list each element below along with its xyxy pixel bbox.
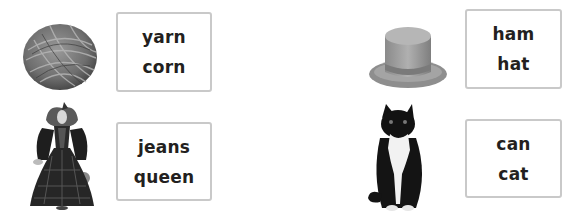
word-choice-box: yarn corn — [116, 12, 212, 92]
word-choice-box: ham hat — [465, 9, 562, 89]
word-option[interactable]: ham — [493, 19, 535, 49]
cat-picture — [366, 104, 438, 212]
word-option[interactable]: cat — [498, 159, 528, 189]
word-option[interactable]: yarn — [142, 22, 186, 52]
word-option[interactable]: hat — [497, 49, 529, 79]
yarn-ball-picture — [20, 20, 100, 92]
word-option[interactable]: queen — [134, 162, 194, 192]
word-option[interactable]: jeans — [138, 132, 190, 162]
word-option[interactable]: can — [496, 129, 530, 159]
queen-picture — [24, 100, 100, 212]
word-choice-box: can cat — [465, 119, 562, 198]
word-option[interactable]: corn — [142, 52, 185, 82]
top-hat-picture — [367, 24, 449, 90]
word-choice-box: jeans queen — [116, 122, 212, 201]
